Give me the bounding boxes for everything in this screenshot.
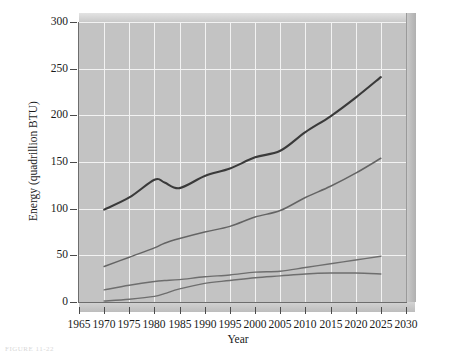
x-tick-mark xyxy=(205,307,206,314)
gridline-vertical xyxy=(356,22,357,302)
gridline-vertical xyxy=(129,22,130,302)
x-tick-label: 2030 xyxy=(384,318,428,330)
y-tick-label: 200 xyxy=(0,109,80,120)
x-tick-mark xyxy=(331,307,332,314)
plot-3d-top-edge xyxy=(79,13,415,22)
x-axis-title: Year xyxy=(0,333,476,345)
x-tick-mark xyxy=(129,307,130,314)
gridline-vertical xyxy=(305,22,306,302)
x-tick-mark xyxy=(180,307,181,314)
y-tick-label: 250 xyxy=(0,63,80,74)
energy-line-chart: 050100150200250300 196519701975198019851… xyxy=(0,0,476,356)
gridline-vertical xyxy=(381,22,382,302)
y-tick-label: 0 xyxy=(0,296,80,307)
y-tick-label: 300 xyxy=(0,16,80,27)
y-tick-label: 100 xyxy=(0,203,80,214)
y-tick-label: 50 xyxy=(0,249,80,260)
figure-caption-fragment: FIGURE 11-22 xyxy=(5,345,115,352)
gridline-vertical xyxy=(104,22,105,302)
gridline-vertical xyxy=(255,22,256,302)
gridline-vertical xyxy=(180,22,181,302)
gridline-vertical xyxy=(331,22,332,302)
x-tick-mark xyxy=(356,307,357,314)
x-axis-line xyxy=(78,302,407,303)
gridline-vertical xyxy=(280,22,281,302)
x-tick-mark xyxy=(381,307,382,314)
x-tick-mark xyxy=(154,307,155,314)
gridline-vertical xyxy=(205,22,206,302)
x-tick-mark xyxy=(280,307,281,314)
x-tick-mark xyxy=(255,307,256,314)
x-tick-mark xyxy=(79,307,80,314)
gridline-vertical xyxy=(230,22,231,302)
y-axis-title: Energy (quadrillion BTU) xyxy=(27,36,39,286)
x-tick-mark xyxy=(305,307,306,314)
gridline-vertical xyxy=(154,22,155,302)
y-tick-label: 150 xyxy=(0,156,80,167)
figure-root: 050100150200250300 196519701975198019851… xyxy=(0,0,476,356)
x-tick-mark xyxy=(104,307,105,314)
plot-3d-right-edge xyxy=(406,13,416,302)
x-tick-mark xyxy=(230,307,231,314)
x-tick-mark xyxy=(406,307,407,314)
